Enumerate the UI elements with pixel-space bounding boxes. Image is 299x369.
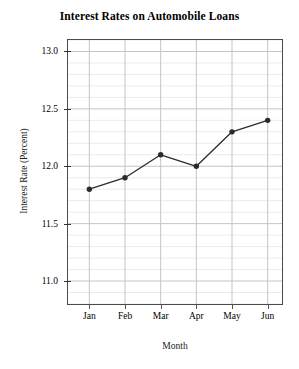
x-tick-label-may: May [212, 311, 252, 321]
x-tick-mark [161, 304, 162, 309]
x-tick-mark [125, 304, 126, 309]
x-tick-label-feb: Feb [105, 311, 145, 321]
data-point-jan [87, 187, 92, 192]
chart-container: Interest Rates on Automobile Loans Inter… [0, 0, 299, 369]
chart-title: Interest Rates on Automobile Loans [0, 10, 299, 22]
x-tick-mark [268, 304, 269, 309]
y-tick-mark [64, 109, 71, 110]
x-tick-label-jun: Jun [248, 311, 288, 321]
x-tick-label-mar: Mar [141, 311, 181, 321]
data-point-may [229, 129, 234, 134]
x-tick-mark [196, 304, 197, 309]
plot-svg [68, 40, 282, 304]
x-axis-title: Month [67, 341, 283, 351]
y-tick-label: 12.5 [12, 104, 58, 114]
y-tick-label: 11.5 [12, 219, 58, 229]
x-tick-label-jan: Jan [69, 311, 109, 321]
data-point-mar [158, 152, 163, 157]
vertical-gridlines [89, 40, 267, 304]
data-point-feb [122, 175, 127, 180]
plot-area [67, 39, 283, 305]
y-tick-mark [64, 224, 71, 225]
data-point-apr [194, 164, 199, 169]
minor-gridlines [68, 40, 282, 304]
x-tick-mark [232, 304, 233, 309]
y-tick-mark [64, 281, 71, 282]
x-tick-label-apr: Apr [176, 311, 216, 321]
y-tick-label: 12.0 [12, 161, 58, 171]
data-point-jun [265, 118, 270, 123]
x-tick-mark [89, 304, 90, 309]
y-tick-label: 11.0 [12, 276, 58, 286]
y-tick-label: 13.0 [12, 46, 58, 56]
y-tick-mark [64, 51, 71, 52]
y-tick-mark [64, 166, 71, 167]
